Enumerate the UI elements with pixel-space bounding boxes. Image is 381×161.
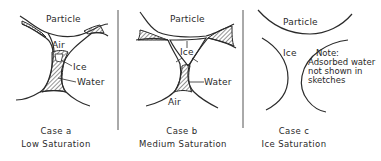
- case-b-air-label: Air: [168, 97, 181, 107]
- case-c-ice-label: Ice: [283, 48, 297, 58]
- case-a-caption-title: Low Saturation: [6, 139, 106, 150]
- case-b-caption-title: Medium Saturation: [128, 139, 238, 150]
- case-b-water-left-meniscus: [138, 30, 168, 40]
- case-a-particle-label: Particle: [46, 14, 81, 24]
- case-a-ice-label: Ice: [73, 62, 87, 72]
- case-a-air-label: Air: [52, 40, 65, 50]
- case-a-water-left-meniscus: [22, 21, 46, 37]
- case-b-water-bridge: [174, 65, 192, 93]
- case-a-caption-case: Case a: [26, 126, 86, 137]
- case-b-caption-case: Case b: [152, 126, 212, 137]
- case-b-water-right-meniscus: [208, 26, 234, 46]
- case-a-water-label: Water: [77, 77, 105, 87]
- case-b-water-label: Water: [204, 77, 232, 87]
- case-a-water-right-meniscus: [84, 25, 104, 34]
- case-b-sketch: [136, 12, 236, 108]
- case-b-particle-label: Particle: [170, 14, 205, 24]
- case-c-caption-title: Ice Saturation: [254, 139, 334, 150]
- soil-pore-ice-diagram: Particle Air Ice Water Case a Low Satura…: [0, 0, 381, 161]
- case-c-note-line-4: sketches: [308, 76, 375, 85]
- case-c-caption-case: Case c: [264, 126, 324, 137]
- case-c-particle-label: Particle: [283, 17, 318, 27]
- case-b-ice-label: Ice: [180, 47, 194, 57]
- case-c-note: Note: Adsorbed water not shown in sketch…: [308, 49, 375, 85]
